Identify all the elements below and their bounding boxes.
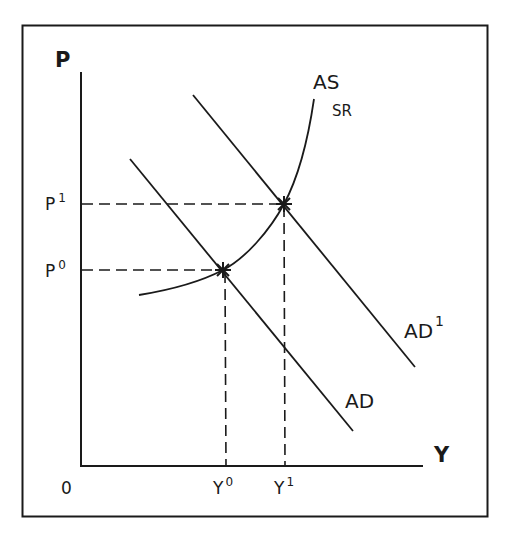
as-sr-label: AS: [313, 70, 339, 94]
y1-guide: [284, 206, 285, 466]
ad-label: AD: [345, 389, 374, 413]
y1-label: Y1: [273, 475, 294, 498]
equilibrium-e1-marker: [276, 196, 292, 212]
guide-lines: [82, 204, 285, 466]
y0-guide: [225, 272, 226, 466]
ad1-label: AD1: [404, 313, 444, 343]
p1-label: P1: [45, 191, 66, 214]
p0-label: P0: [45, 258, 66, 281]
origin-label: 0: [61, 478, 72, 498]
y-axis-title: P: [55, 48, 70, 72]
ad-curve: [130, 159, 353, 431]
y0-label: Y0: [212, 475, 233, 498]
outer-frame: [23, 26, 488, 517]
equilibrium-e0-marker: [215, 262, 231, 278]
x-axis-title: Y: [433, 443, 450, 467]
ad-as-diagram: P Y 0 P1 P0 Y0 Y1 AS SR AD: [0, 0, 509, 541]
ad1-curve: [193, 95, 415, 367]
as-sr-subscript: SR: [332, 102, 352, 120]
